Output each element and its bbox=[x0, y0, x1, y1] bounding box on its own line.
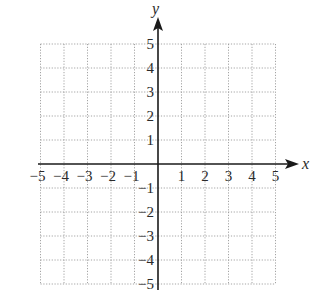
y-axis-label: y bbox=[150, 0, 160, 18]
x-tick-label: 1 bbox=[178, 168, 186, 184]
x-tick-labels: −5−4−3−2−112345 bbox=[30, 168, 280, 184]
x-tick-label: 2 bbox=[201, 168, 209, 184]
y-tick-label: 4 bbox=[147, 60, 155, 76]
coordinate-plane: x y −5−4−3−2−112345 54321−1−2−3−4−5 bbox=[0, 0, 316, 299]
x-axis-label: x bbox=[301, 155, 309, 172]
x-tick-label: −3 bbox=[77, 168, 93, 184]
y-tick-label: 2 bbox=[147, 108, 155, 124]
axes: x y bbox=[38, 0, 309, 290]
y-tick-label: −4 bbox=[138, 252, 154, 268]
x-tick-label: 5 bbox=[272, 168, 280, 184]
y-tick-label: 1 bbox=[147, 132, 155, 148]
x-tick-label: 3 bbox=[225, 168, 233, 184]
y-tick-label: −1 bbox=[138, 180, 154, 196]
x-tick-label: 4 bbox=[248, 168, 256, 184]
x-tick-label: −5 bbox=[30, 168, 46, 184]
y-tick-label: −3 bbox=[138, 228, 154, 244]
y-tick-label: −5 bbox=[138, 276, 154, 292]
y-tick-label: 3 bbox=[147, 84, 155, 100]
y-tick-label: 5 bbox=[147, 36, 155, 52]
x-tick-label: −2 bbox=[100, 168, 116, 184]
y-tick-label: −2 bbox=[138, 204, 154, 220]
x-tick-label: −4 bbox=[53, 168, 69, 184]
